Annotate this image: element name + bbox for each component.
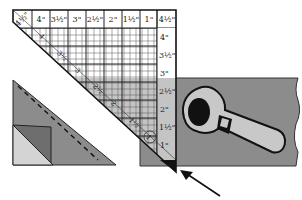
side-label: 3" [160, 69, 169, 78]
top-label: 3" [73, 15, 82, 24]
top-label: 1½" [123, 15, 140, 24]
side-label: 3½" [159, 51, 176, 60]
side-label: 1½" [159, 123, 176, 132]
top-label: 2½" [87, 15, 104, 24]
side-label: 2½" [159, 87, 176, 96]
top-label: 4" [37, 15, 46, 24]
ruler-diagram: 4½" 4" 3½" 3" 2½" 2" 1½" 1" 4½" 4" 3½" 3… [0, 0, 302, 200]
side-label: 2" [160, 105, 169, 114]
top-label: 1" [145, 15, 154, 24]
arrow-icon [180, 170, 220, 196]
side-label: 1" [160, 141, 169, 150]
side-label: 4" [160, 33, 169, 42]
top-label: 4½" [159, 15, 176, 24]
top-label: 3½" [51, 15, 68, 24]
top-label: 2" [109, 15, 118, 24]
